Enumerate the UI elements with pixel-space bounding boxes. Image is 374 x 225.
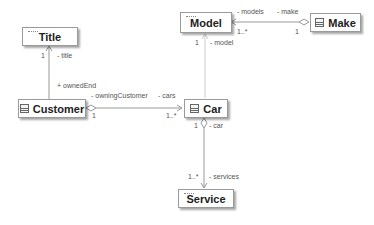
role-car: - car <box>209 122 223 129</box>
aggregation-diamond-car <box>201 118 207 128</box>
enumeration-stereotype-icon <box>184 193 194 196</box>
class-car[interactable]: Car <box>184 99 228 118</box>
role-owning-customer: - owningCustomer <box>91 92 148 99</box>
class-icon <box>20 104 29 113</box>
class-name: Customer <box>33 103 84 115</box>
class-customer[interactable]: Customer <box>18 99 86 118</box>
aggregation-diamond-make <box>299 19 309 25</box>
mult-model: 1 <box>195 39 199 46</box>
mult-car: 1 <box>194 122 198 129</box>
class-name: Make <box>328 17 356 29</box>
role-title: - title <box>57 52 72 59</box>
role-make: - make <box>277 8 298 15</box>
class-service[interactable]: Service <box>178 189 234 208</box>
class-make[interactable]: Make <box>310 13 361 32</box>
enumeration-stereotype-icon <box>28 31 38 34</box>
role-owned-end: + ownedEnd <box>57 82 96 89</box>
mult-make: 1 <box>295 28 299 35</box>
aggregation-diamond-customer <box>86 105 96 111</box>
enumeration-stereotype-icon <box>186 16 196 19</box>
role-models: - models <box>237 8 264 15</box>
class-name: Title <box>39 31 61 43</box>
mult-title: 1 <box>41 52 45 59</box>
class-name: Car <box>203 103 221 115</box>
class-icon <box>315 18 324 27</box>
mult-models: 1..* <box>237 28 248 35</box>
class-icon <box>190 104 199 113</box>
mult-customer: 1 <box>92 112 96 119</box>
role-services: - services <box>209 173 239 180</box>
mult-services: 1..* <box>188 173 199 180</box>
class-title[interactable]: Title <box>22 27 78 46</box>
mult-cars: 1..* <box>166 112 177 119</box>
role-model: - model <box>210 39 233 46</box>
role-cars: - cars <box>158 92 176 99</box>
class-model[interactable]: Model <box>180 12 232 33</box>
